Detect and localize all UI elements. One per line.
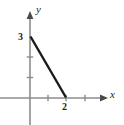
- graph-figure: y x 3 2: [0, 0, 124, 125]
- line-segment: [31, 37, 67, 98]
- y-axis-arrow-icon: [27, 11, 34, 19]
- y-axis-label: y: [36, 4, 41, 15]
- x-intercept-label: 2: [62, 102, 67, 112]
- x-axis-label: x: [110, 89, 115, 100]
- y-intercept-label: 3: [18, 32, 23, 42]
- x-axis-arrow-icon: [100, 95, 108, 102]
